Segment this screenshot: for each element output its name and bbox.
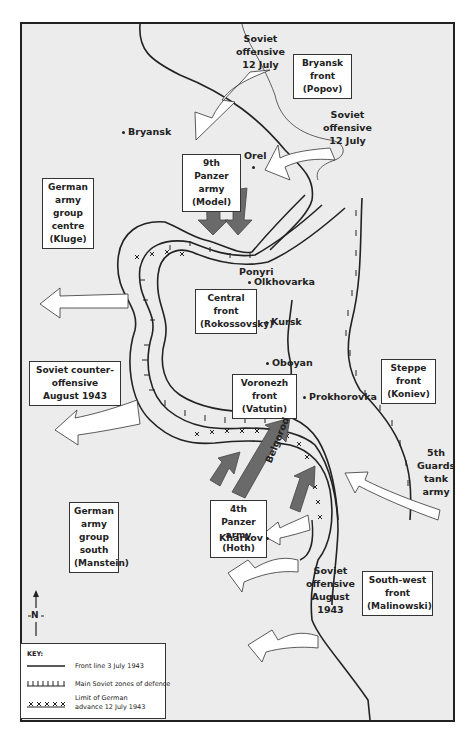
german-arrows [198,188,315,512]
compass-north-label: N [31,610,39,620]
label-soviet-offensive-north: Soviet offensive 12 July [236,32,285,71]
box-voronezh-front: Voronezh front (Vatutin) [232,374,297,419]
box-9th-panzer: 9th Panzer army (Model) [182,154,241,212]
city-olkhovarka: Olkhovarka [245,276,315,288]
soviet-arrow-august-1 [228,558,298,592]
german-arrow-south-1 [210,452,240,486]
soviet-arrow-counter-1 [40,288,128,318]
box-army-group-centre: German army group centre (Kluge) [42,178,94,249]
x-line-icon [27,696,67,710]
key-item-defence-zones: Main Soviet zones of defence [27,680,67,690]
box-steppe-front: Steppe front (Koniev) [381,359,436,404]
box-central-front: Central front (Rokossovsky) [195,289,257,334]
city-bryansk: Bryansk [119,126,171,138]
map-key: KEY: Front line 3 July 1943 Main Soviet … [20,643,166,719]
box-southwest-front: South-west front (Malinowski) [362,571,433,616]
solid-line-icon [27,662,67,670]
soviet-arrow-august-2 [248,630,318,662]
key-title: KEY: [27,650,43,658]
german-arrow-south-3 [290,466,315,512]
soviet-arrow-east [265,145,335,180]
box-army-group-south: German army group south (Manstein) [69,502,119,573]
box-4th-panzer: 4th Panzer army (Hoth) [210,500,267,558]
label-soviet-offensive-august: Soviet offensive August 1943 [306,564,355,616]
label-soviet-offensive-east: Soviet offensive 12 July [323,108,372,147]
key-item-front-line: Front line 3 July 1943 [27,662,67,672]
box-counter-offensive: Soviet counter- offensive August 1943 [29,361,121,406]
city-kursk: Kursk [262,316,302,328]
tick-line-icon [27,680,67,688]
city-prokhorovka: Prokhorovka [300,391,377,403]
key-item-german-advance: Limit of Germanadvance 12 July 1943 [27,696,67,712]
orel-dot [249,161,258,173]
soviet-arrow-north [195,70,270,140]
box-bryansk-front: Bryansk front (Popov) [293,54,352,99]
label-5th-guards-tank-army: 5th Guards tank army [417,446,455,498]
city-oboyan: Oboyan [263,357,313,369]
soviet-arrow-counter-2 [55,400,140,445]
city-kharkov: Kharkov [219,532,272,544]
